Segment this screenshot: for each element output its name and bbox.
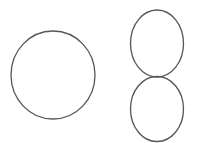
left-circle-shape (11, 31, 95, 119)
diagram-canvas (0, 0, 200, 143)
shapes-drawing (0, 0, 200, 143)
lower-right-ellipse-shape (131, 77, 184, 142)
upper-right-ellipse-shape (131, 10, 184, 77)
